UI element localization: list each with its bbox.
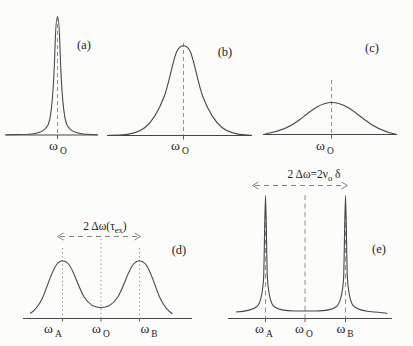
- lineshape-figure: (a) (b) (c) (d) (e) ωO ωO ωO ωA ωO ωB ωA…: [0, 0, 413, 346]
- panel-d-omega0-label: ωO: [92, 322, 110, 341]
- panel-b-label: (b): [218, 46, 233, 59]
- omega-subscript: B: [347, 329, 353, 339]
- panel-e-arrowhead-right: [342, 182, 348, 189]
- panel-a-curve: [6, 17, 98, 135]
- figure-graphics: [0, 0, 413, 346]
- omega-symbol: ω: [44, 321, 53, 336]
- panel-c-label: (c): [365, 42, 379, 55]
- panel-e-omega0-label: ωO: [295, 322, 313, 341]
- annotation-text: 2 Δω=2ν: [288, 168, 328, 180]
- omega-subscript: A: [55, 329, 62, 339]
- omega-symbol: ω: [171, 138, 180, 153]
- panel-c-omega0-label: ωO: [316, 139, 334, 158]
- panel-e-omegaA-label: ωA: [255, 322, 273, 341]
- omega-subscript: O: [103, 329, 110, 339]
- panel-c-curve: [265, 103, 396, 135]
- annotation-text: δ: [332, 168, 340, 180]
- panel-d-omegaA-label: ωA: [44, 322, 62, 341]
- panel-e-curve: [236, 196, 388, 314]
- panel-e-width-annotation: 2 Δω=2νo δ: [288, 168, 341, 184]
- panel-d-label: (d): [172, 244, 187, 257]
- panel-e-label: (e): [372, 243, 386, 256]
- panel-e-omegaB-label: ωB: [336, 322, 353, 341]
- panel-a-omega0-label: ωO: [49, 139, 67, 158]
- omega-symbol: ω: [316, 138, 325, 153]
- omega-subscript: O: [182, 146, 189, 156]
- panel-b-curve: [109, 46, 251, 136]
- omega-subscript: B: [151, 329, 157, 339]
- panel-d-omegaB-label: ωB: [140, 322, 157, 341]
- annotation-text: 2 Δω(τ: [83, 220, 114, 232]
- omega-symbol: ω: [255, 321, 264, 336]
- panel-b-omega0-label: ωO: [171, 139, 189, 158]
- annotation-text: ): [123, 220, 127, 232]
- omega-symbol: ω: [336, 321, 345, 336]
- omega-symbol: ω: [295, 321, 304, 336]
- omega-symbol: ω: [92, 321, 101, 336]
- omega-symbol: ω: [49, 138, 58, 153]
- panel-a-label: (a): [77, 39, 91, 52]
- omega-subscript: A: [266, 329, 273, 339]
- omega-subscript: O: [327, 146, 334, 156]
- panel-d-width-annotation: 2 Δω(τex): [83, 220, 126, 236]
- omega-symbol: ω: [140, 321, 149, 336]
- omega-subscript: O: [306, 329, 313, 339]
- omega-subscript: O: [60, 146, 67, 156]
